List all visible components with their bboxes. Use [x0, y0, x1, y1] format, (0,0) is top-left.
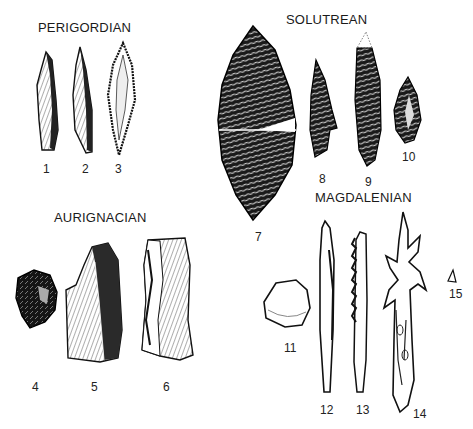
- group-label-solutrean: SOLUTREAN: [286, 12, 367, 27]
- artifact-2: [73, 47, 92, 153]
- group-label-perigordian: PERIGORDIAN: [38, 20, 131, 35]
- item-number-7: 7: [255, 230, 262, 244]
- item-number-13: 13: [356, 403, 369, 417]
- artifact-4: [16, 270, 57, 328]
- item-number-9: 9: [365, 175, 372, 189]
- artifact-1: [37, 52, 58, 150]
- item-number-1: 1: [43, 162, 50, 176]
- item-number-12: 12: [320, 403, 333, 417]
- item-number-5: 5: [91, 380, 98, 394]
- item-number-11: 11: [284, 341, 296, 355]
- item-number-14: 14: [413, 407, 426, 421]
- artifact-7: [218, 26, 296, 220]
- artifact-12: [320, 221, 334, 392]
- item-number-8: 8: [319, 172, 326, 186]
- artifact-8: [310, 60, 337, 157]
- artifact-13: [352, 232, 367, 392]
- item-number-15: 15: [449, 287, 462, 301]
- item-number-4: 4: [32, 380, 39, 394]
- item-number-6: 6: [163, 380, 170, 394]
- artifact-9: [355, 32, 381, 166]
- group-label-aurignacian: AURIGNACIAN: [54, 210, 147, 225]
- artifact-15: [448, 270, 456, 282]
- item-number-2: 2: [82, 162, 89, 176]
- group-label-magdalenian: MAGDALENIAN: [315, 190, 412, 205]
- artifact-14: [384, 212, 426, 412]
- artifact-3: [108, 43, 135, 155]
- item-number-10: 10: [402, 150, 415, 164]
- artifact-6: [142, 238, 193, 360]
- artifact-10: [394, 77, 421, 143]
- artifact-5: [66, 243, 122, 362]
- stone-tools-illustration: PERIGORDIAN SOLUTREAN AURIGNACIAN MAGDAL…: [0, 0, 473, 429]
- item-number-3: 3: [115, 162, 122, 176]
- artifact-11: [264, 280, 310, 327]
